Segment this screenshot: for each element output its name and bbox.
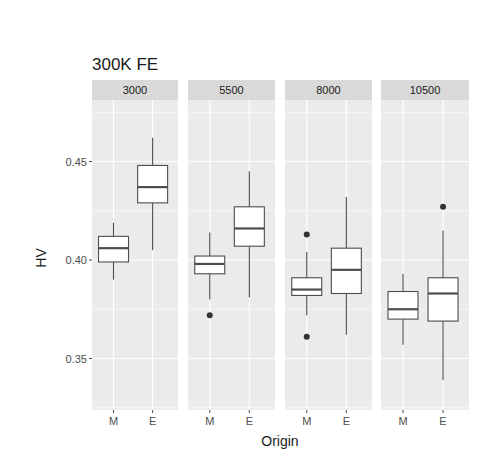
x-tick-label: E: [343, 415, 350, 427]
facet-panels: 3000ME5500ME8000ME10500ME: [92, 80, 469, 427]
y-tick-label: 0.45: [66, 156, 87, 168]
outlier-point: [304, 231, 310, 237]
x-tick-label: E: [439, 415, 446, 427]
facet-panel-10500: 10500ME: [381, 80, 469, 427]
y-tick-label: 0.35: [66, 353, 87, 365]
y-tick-label: 0.40: [66, 254, 87, 266]
x-tick-label: E: [246, 415, 253, 427]
box-iqr: [428, 278, 458, 321]
y-axis-title: HV: [33, 248, 49, 268]
facet-strip-label: 3000: [123, 84, 147, 96]
y-axis: 0.350.400.45: [66, 156, 92, 365]
panel-background: [188, 100, 275, 410]
x-tick-label: M: [398, 415, 407, 427]
box-iqr: [292, 278, 322, 296]
boxplot-chart: 300K FE 3000ME5500ME8000ME10500ME 0.350.…: [0, 0, 492, 475]
facet-panel-5500: 5500ME: [188, 80, 275, 427]
box-iqr: [234, 207, 264, 246]
outlier-point: [440, 204, 446, 210]
box-iqr: [138, 165, 168, 202]
x-tick-label: M: [109, 415, 118, 427]
facet-strip-label: 8000: [316, 84, 340, 96]
outlier-point: [207, 312, 213, 318]
outlier-point: [304, 334, 310, 340]
box-iqr: [388, 292, 418, 320]
facet-strip-label: 10500: [410, 84, 441, 96]
x-tick-label: M: [302, 415, 311, 427]
facet-strip-label: 5500: [219, 84, 243, 96]
x-tick-label: M: [205, 415, 214, 427]
x-tick-label: E: [149, 415, 156, 427]
x-axis-title: Origin: [261, 433, 298, 449]
panel-background: [381, 100, 469, 410]
facet-panel-3000: 3000ME: [92, 80, 178, 427]
facet-panel-8000: 8000ME: [285, 80, 372, 427]
chart-title: 300K FE: [92, 55, 158, 74]
